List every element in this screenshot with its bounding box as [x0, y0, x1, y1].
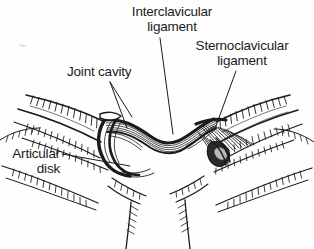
label-interclavicular-line2: ligament	[117, 19, 227, 34]
label-sternoclavicular-line2: ligament	[186, 53, 298, 68]
label-joint-cavity: Joint cavity	[67, 64, 131, 79]
anatomy-figure: Interclavicular ligament Sternoclavicula…	[0, 0, 314, 249]
label-sternoclavicular-line1: Sternoclavicular	[186, 38, 298, 53]
interclavicular-leader	[160, 38, 173, 134]
label-interclavicular-line1: Interclavicular	[117, 4, 227, 19]
label-articular-disk: Articular disk	[2, 146, 60, 176]
label-joint-cavity-line1: Joint cavity	[67, 64, 131, 79]
paper-smudge	[20, 45, 25, 46]
right-sternoclavicular-ligament	[196, 119, 254, 166]
label-articular-disk-line2: disk	[2, 161, 60, 176]
outer-arc-right	[274, 129, 314, 144]
label-interclavicular-ligament: Interclavicular ligament	[117, 4, 227, 34]
manubrium	[108, 176, 208, 249]
label-articular-disk-line1: Articular	[2, 146, 60, 161]
label-sternoclavicular-ligament: Sternoclavicular ligament	[186, 38, 298, 68]
first-rib-right	[216, 168, 312, 212]
